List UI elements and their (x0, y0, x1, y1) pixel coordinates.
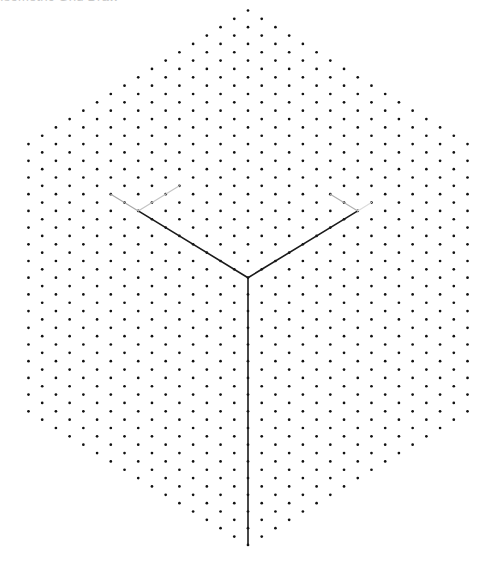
grid-dot[interactable] (329, 477, 332, 480)
grid-dot[interactable] (41, 218, 44, 221)
grid-dot[interactable] (315, 335, 318, 338)
grid-dot[interactable] (370, 285, 373, 288)
grid-dot[interactable] (82, 293, 85, 296)
grid-dot[interactable] (329, 143, 332, 146)
grid-dot[interactable] (315, 452, 318, 455)
grid-dot[interactable] (109, 460, 112, 463)
grid-dot[interactable] (233, 368, 236, 371)
grid-dot[interactable] (302, 377, 305, 380)
grid-dot[interactable] (370, 218, 373, 221)
grid-dot[interactable] (288, 68, 291, 71)
grid-dot[interactable] (384, 93, 387, 96)
grid-dot[interactable] (82, 326, 85, 329)
grid-dot[interactable] (55, 427, 58, 430)
grid-dot[interactable] (192, 43, 195, 46)
grid-dot[interactable] (356, 477, 359, 480)
grid-dot[interactable] (233, 218, 236, 221)
grid-dot[interactable] (233, 68, 236, 71)
grid-dot[interactable] (288, 201, 291, 204)
grid-dot[interactable] (137, 360, 140, 363)
grid-dot[interactable] (205, 134, 208, 137)
grid-dot[interactable] (192, 293, 195, 296)
grid-dot[interactable] (384, 126, 387, 129)
grid-dot[interactable] (164, 159, 167, 162)
grid-dot[interactable] (315, 101, 318, 104)
grid-dot[interactable] (178, 285, 181, 288)
grid-dot[interactable] (356, 276, 359, 279)
grid-dot[interactable] (343, 452, 346, 455)
grid-dot[interactable] (425, 418, 428, 421)
grid-dot[interactable] (411, 176, 414, 179)
grid-dot[interactable] (68, 418, 71, 421)
grid-dot[interactable] (370, 268, 373, 271)
grid-dot[interactable] (384, 226, 387, 229)
grid-dot[interactable] (82, 410, 85, 413)
grid-dot[interactable] (137, 427, 140, 430)
grid-dot[interactable] (343, 168, 346, 171)
grid-dot[interactable] (343, 485, 346, 488)
grid-dot[interactable] (55, 243, 58, 246)
grid-dot[interactable] (343, 84, 346, 87)
grid-dot[interactable] (219, 210, 222, 213)
grid-dot[interactable] (247, 260, 250, 263)
grid-dot[interactable] (343, 335, 346, 338)
grid-dot[interactable] (356, 93, 359, 96)
grid-dot[interactable] (466, 326, 469, 329)
grid-dot[interactable] (384, 193, 387, 196)
grid-dot[interactable] (329, 59, 332, 62)
grid-dot[interactable] (82, 260, 85, 263)
grid-dot[interactable] (247, 26, 250, 29)
grid-dot[interactable] (82, 243, 85, 246)
grid-dot[interactable] (274, 477, 277, 480)
grid-dot[interactable] (452, 218, 455, 221)
grid-dot[interactable] (41, 368, 44, 371)
grid-dot[interactable] (274, 126, 277, 129)
grid-dot[interactable] (274, 43, 277, 46)
grid-dot[interactable] (260, 301, 263, 304)
grid-dot[interactable] (109, 176, 112, 179)
grid-dot[interactable] (370, 301, 373, 304)
grid-dot[interactable] (343, 134, 346, 137)
grid-dot[interactable] (151, 151, 154, 154)
grid-dot[interactable] (219, 159, 222, 162)
grid-dot[interactable] (219, 126, 222, 129)
grid-dot[interactable] (137, 143, 140, 146)
grid-dot[interactable] (274, 210, 277, 213)
grid-dot[interactable] (356, 427, 359, 430)
grid-dot[interactable] (315, 185, 318, 188)
grid-dot[interactable] (288, 218, 291, 221)
grid-dot[interactable] (233, 318, 236, 321)
grid-dot[interactable] (411, 109, 414, 112)
grid-dot[interactable] (315, 218, 318, 221)
grid-dot[interactable] (123, 218, 126, 221)
grid-dot[interactable] (425, 251, 428, 254)
grid-dot[interactable] (260, 101, 263, 104)
grid-dot[interactable] (137, 159, 140, 162)
grid-dot[interactable] (274, 293, 277, 296)
grid-dot[interactable] (466, 377, 469, 380)
grid-dot[interactable] (233, 468, 236, 471)
grid-dot[interactable] (452, 301, 455, 304)
grid-dot[interactable] (329, 360, 332, 363)
grid-dot[interactable] (466, 360, 469, 363)
grid-dot[interactable] (123, 435, 126, 438)
grid-dot[interactable] (233, 84, 236, 87)
grid-dot[interactable] (137, 126, 140, 129)
grid-dot[interactable] (260, 185, 263, 188)
grid-dot[interactable] (55, 143, 58, 146)
grid-dot[interactable] (302, 360, 305, 363)
grid-dot[interactable] (274, 243, 277, 246)
grid-dot[interactable] (439, 143, 442, 146)
grid-dot[interactable] (205, 502, 208, 505)
grid-dot[interactable] (219, 43, 222, 46)
grid-dot[interactable] (192, 360, 195, 363)
grid-dot[interactable] (151, 318, 154, 321)
grid-dot[interactable] (205, 51, 208, 54)
grid-dot[interactable] (96, 368, 99, 371)
grid-dot[interactable] (411, 360, 414, 363)
grid-dot[interactable] (370, 402, 373, 405)
grid-dot[interactable] (219, 293, 222, 296)
grid-dot[interactable] (205, 418, 208, 421)
grid-dot[interactable] (315, 134, 318, 137)
grid-dot[interactable] (68, 201, 71, 204)
